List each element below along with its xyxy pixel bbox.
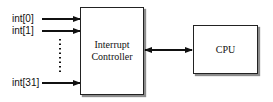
interrupt-controller-box: Interrupt Controller — [80, 7, 144, 95]
input-label-int0: int[0] — [12, 14, 34, 24]
cpu-box: CPU — [193, 25, 258, 74]
interrupt-diagram: int[0] int[1] int[31] Interrupt Controll… — [0, 0, 273, 102]
controller-label-line2: Controller — [91, 51, 132, 63]
input-label-int1: int[1] — [12, 26, 34, 36]
controller-label-line1: Interrupt — [95, 39, 130, 51]
cpu-label: CPU — [216, 44, 235, 56]
input-label-int31: int[31] — [12, 78, 39, 88]
